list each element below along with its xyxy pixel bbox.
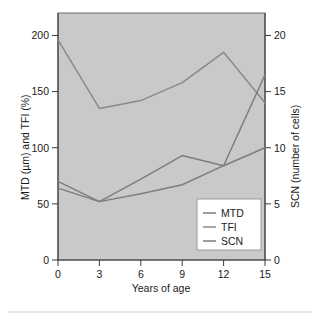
- legend-label-scn: SCN: [221, 235, 243, 247]
- x-tick-label: 3: [96, 268, 102, 280]
- left-tick-label: 0: [43, 254, 49, 266]
- right-tick-label: 15: [274, 85, 286, 97]
- right-tick-label: 5: [274, 198, 280, 210]
- x-tick-label: 15: [259, 268, 271, 280]
- legend-label-mtd: MTD: [221, 207, 244, 219]
- left-tick-label: 200: [31, 29, 49, 41]
- chart-legend[interactable]: MTDTFISCN: [197, 199, 261, 250]
- x-tick-label: 12: [218, 268, 230, 280]
- x-tick-label: 0: [55, 268, 61, 280]
- figure-container: 050100150200 05101520 03691215 MTD (µm) …: [0, 0, 320, 319]
- line-chart: 050100150200 05101520 03691215 MTD (µm) …: [0, 0, 320, 319]
- x-axis-title: Years of age: [132, 282, 191, 294]
- left-axis-title: MTD (µm) and TFI (%): [19, 94, 31, 200]
- legend-label-tfi: TFI: [221, 221, 237, 233]
- left-tick-label: 150: [31, 85, 49, 97]
- left-tick-label: 100: [31, 142, 49, 154]
- right-axis-title: SCN (number of cells): [289, 105, 301, 208]
- right-tick-label: 0: [274, 254, 280, 266]
- x-tick-label: 9: [179, 268, 185, 280]
- right-tick-label: 20: [274, 29, 286, 41]
- x-tick-label: 6: [138, 268, 144, 280]
- left-tick-label: 50: [37, 198, 49, 210]
- right-tick-label: 10: [274, 142, 286, 154]
